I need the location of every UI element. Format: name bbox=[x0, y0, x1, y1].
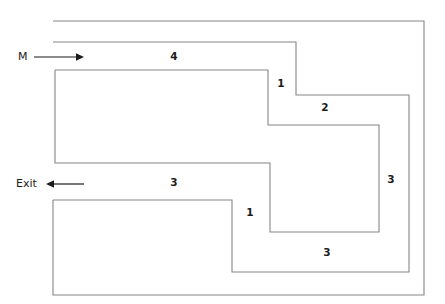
inner-spiral-wall bbox=[55, 70, 379, 232]
outer-boundary-wall bbox=[53, 21, 424, 295]
segment-3-left-label: 3 bbox=[170, 176, 177, 188]
outlet-label: Exit bbox=[16, 177, 38, 190]
segment-3-bottom-label: 3 bbox=[323, 246, 330, 258]
inlet-label: M bbox=[18, 50, 28, 63]
figure-root: M Exit 4 1 2 3 3 1 3 bbox=[0, 0, 445, 304]
segment-1-upper-label: 1 bbox=[277, 77, 284, 89]
upper-channel-wall bbox=[53, 42, 409, 272]
channel-diagram-svg: M Exit 4 1 2 3 3 1 3 bbox=[0, 0, 445, 304]
inlet-arrow-icon bbox=[34, 53, 84, 61]
segment-1-lower-label: 1 bbox=[246, 206, 253, 218]
segment-3-right-label: 3 bbox=[387, 173, 394, 185]
segment-2-label: 2 bbox=[321, 101, 328, 113]
outlet-arrow-icon bbox=[46, 180, 84, 188]
segment-4-label: 4 bbox=[170, 50, 177, 62]
